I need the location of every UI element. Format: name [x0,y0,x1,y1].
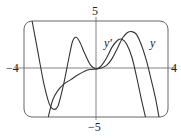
y-prime-label: y′ [103,36,112,50]
x-max-label: 4 [171,61,177,75]
y-max-label: 5 [92,4,98,18]
y-min-label: −5 [88,120,101,134]
x-min-label: −4 [6,61,19,75]
curve-y-prime [32,21,145,117]
chart: 5 −5 −4 4 y′ y [0,0,181,138]
y-label: y [149,36,156,50]
